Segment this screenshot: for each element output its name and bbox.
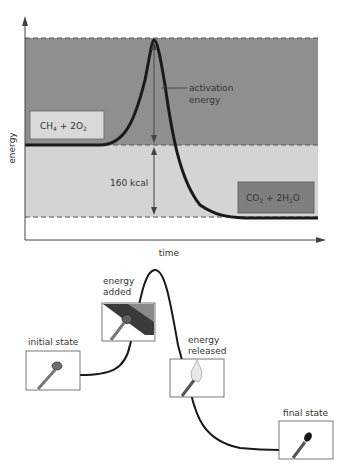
initial-state-label: initial state (28, 337, 79, 347)
energy-released-panel (170, 359, 224, 397)
initial-state-panel (26, 351, 80, 390)
x-axis-label: time (159, 248, 180, 258)
match-head-icon (122, 315, 132, 324)
y-axis-label: energy (7, 132, 17, 164)
energy-released-label-2: released (188, 346, 227, 356)
energy-added-panel (102, 303, 155, 341)
delta-label: 160 kcal (110, 178, 148, 188)
activation-label-2: energy (189, 95, 221, 105)
energy-added-label: energy (103, 276, 135, 286)
y-axis-arrow-icon (22, 16, 28, 26)
activation-label: activation (189, 83, 234, 93)
final-state-label: final state (283, 408, 329, 418)
energy-released-label: energy (188, 335, 220, 345)
final-state-panel (279, 421, 333, 459)
x-axis-arrow-icon (316, 237, 326, 243)
reactants-label: CH4 + 2O2 (40, 121, 87, 132)
match-head-icon (52, 362, 62, 370)
energy-added-label-2: added (103, 287, 131, 297)
energy-diagram: energy time activation energy 160 kcal C… (0, 0, 343, 474)
